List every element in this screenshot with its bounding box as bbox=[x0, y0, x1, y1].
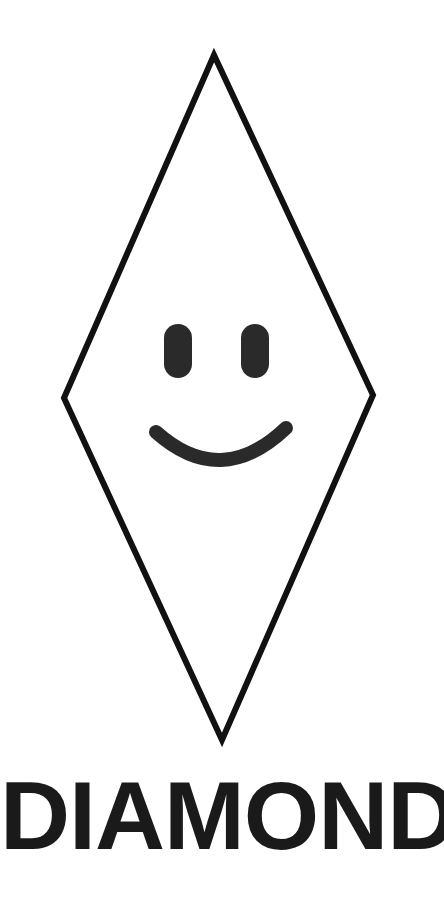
right-eye bbox=[241, 324, 269, 378]
diamond-outline bbox=[64, 55, 373, 740]
left-eye bbox=[164, 324, 192, 378]
shape-label: DIAMOND bbox=[0, 766, 444, 866]
smile-mouth bbox=[156, 428, 286, 460]
